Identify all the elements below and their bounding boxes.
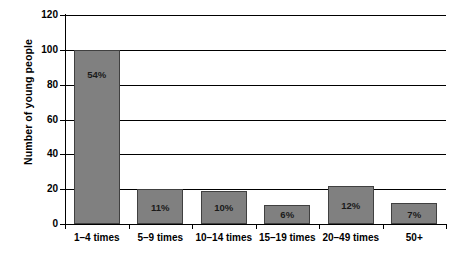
bar: 7%	[391, 203, 437, 224]
x-axis-tick-mark	[65, 224, 66, 229]
y-axis-tick-label: 60	[30, 114, 58, 125]
x-axis-tick-mark	[319, 224, 320, 229]
bar: 10%	[201, 191, 247, 224]
bar-data-label: 10%	[202, 202, 246, 213]
bar-data-label: 7%	[392, 209, 436, 220]
bar: 11%	[137, 189, 183, 224]
x-axis-tick-mark	[256, 224, 257, 229]
y-axis-tick-label: 100	[30, 44, 58, 55]
x-axis-tick-mark	[446, 224, 447, 229]
x-axis-tick-label: 15–19 times	[256, 232, 320, 243]
bar: 12%	[328, 186, 374, 224]
bar-data-label: 54%	[75, 69, 119, 80]
x-axis-tick-label: 5–9 times	[129, 232, 193, 243]
x-axis-tick-label: 20–49 times	[319, 232, 383, 243]
y-axis-tick-label: 20	[30, 183, 58, 194]
x-axis-tick-mark	[383, 224, 384, 229]
y-axis-tick-label: 40	[30, 148, 58, 159]
bar: 54%	[74, 50, 120, 224]
x-axis-tick-label: 10–14 times	[192, 232, 256, 243]
x-axis-tick-label: 1–4 times	[65, 232, 129, 243]
y-axis-tick-label: 120	[30, 9, 58, 20]
y-axis-tick-label: 0	[30, 218, 58, 229]
y-axis-tick-label: 80	[30, 79, 58, 90]
bar-chart: Number of young people 020406080100120 5…	[0, 0, 456, 254]
bar-data-label: 6%	[265, 209, 309, 220]
bars-group: 54%11%10%6%12%7%	[65, 15, 446, 224]
bar-data-label: 11%	[138, 202, 182, 213]
bar-data-label: 12%	[329, 200, 373, 211]
x-axis-tick-mark	[192, 224, 193, 229]
x-axis-tick-label: 50+	[383, 232, 447, 243]
bar: 6%	[264, 205, 310, 224]
x-axis-tick-mark	[129, 224, 130, 229]
